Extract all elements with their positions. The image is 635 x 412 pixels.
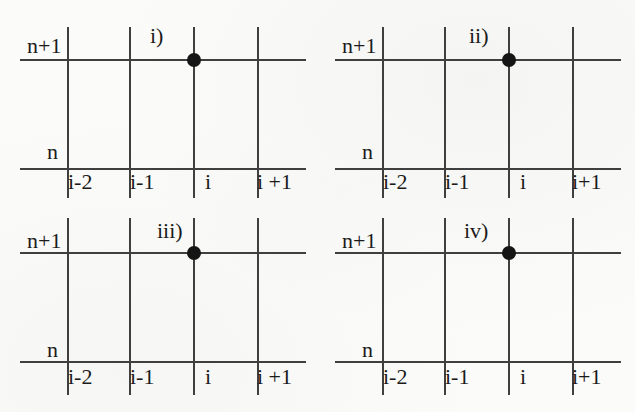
col-label-i: i <box>520 171 526 193</box>
row-label-n-plus-1: n+1 <box>342 35 376 57</box>
stencil-figure: i) n+1 n i-2 i-1 i i +1 ii) n+1 n i-2 i-… <box>0 0 635 412</box>
col-label-i-1: i-1 <box>130 366 154 388</box>
col-label-i-plus-1: i +1 <box>257 171 292 193</box>
row-label-n: n <box>362 141 373 163</box>
grid-hline-n-plus-1 <box>20 252 306 254</box>
row-label-n: n <box>47 141 58 163</box>
row-label-n-plus-1: n+1 <box>342 230 376 252</box>
col-label-i-plus-1: i+1 <box>572 366 602 388</box>
grid-hline-n <box>335 361 621 363</box>
col-label-i-plus-1: i+1 <box>572 171 602 193</box>
col-label-i: i <box>205 171 211 193</box>
row-label-n: n <box>362 339 373 361</box>
col-label-i-1: i-1 <box>445 366 469 388</box>
stencil-panel-i: i) n+1 n i-2 i-1 i i +1 <box>0 0 318 206</box>
col-label-i-1: i-1 <box>130 171 154 193</box>
col-label-i-plus-1: i +1 <box>257 366 292 388</box>
panel-label: ii) <box>469 25 489 47</box>
grid-vline-i <box>193 218 195 395</box>
stencil-panel-iv: iv) n+1 n i-2 i-1 i i+1 <box>315 206 633 412</box>
col-label-i-2: i-2 <box>383 366 407 388</box>
panel-label: i) <box>150 25 163 47</box>
grid-hline-n-plus-1 <box>335 252 621 254</box>
panel-label: iv) <box>464 220 488 242</box>
stencil-panel-ii: ii) n+1 n i-2 i-1 i i+1 <box>315 0 633 206</box>
row-label-n-plus-1: n+1 <box>27 230 61 252</box>
col-label-i-1: i-1 <box>445 171 469 193</box>
stencil-node-dot <box>187 246 201 260</box>
grid-hline-n-plus-1 <box>335 59 621 61</box>
col-label-i-2: i-2 <box>68 171 92 193</box>
row-label-n-plus-1: n+1 <box>27 35 61 57</box>
stencil-node-dot <box>502 53 516 67</box>
col-label-i-2: i-2 <box>383 171 407 193</box>
grid-hline-n-plus-1 <box>20 59 306 61</box>
row-label-n: n <box>47 339 58 361</box>
stencil-node-dot <box>187 53 201 67</box>
grid-hline-n <box>20 361 306 363</box>
col-label-i-2: i-2 <box>68 366 92 388</box>
stencil-node-dot <box>502 246 516 260</box>
panel-label: iii) <box>157 220 183 242</box>
stencil-panel-iii: iii) n+1 n i-2 i-1 i i +1 <box>0 206 318 412</box>
col-label-i: i <box>205 366 211 388</box>
grid-vline-i <box>508 218 510 395</box>
col-label-i: i <box>520 366 526 388</box>
